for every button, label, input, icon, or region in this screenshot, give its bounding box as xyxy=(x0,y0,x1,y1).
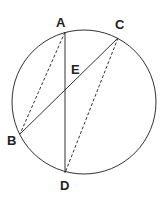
label-a: A xyxy=(56,15,66,30)
label-c: C xyxy=(115,17,125,32)
circle-chords-diagram: A C B D E xyxy=(0,0,166,198)
label-d: D xyxy=(60,178,69,193)
dashed-segment-ab xyxy=(20,32,65,134)
chord-bc xyxy=(20,38,118,134)
dashed-segment-cd xyxy=(65,38,118,173)
label-e: E xyxy=(71,62,80,77)
label-b: B xyxy=(7,133,16,148)
